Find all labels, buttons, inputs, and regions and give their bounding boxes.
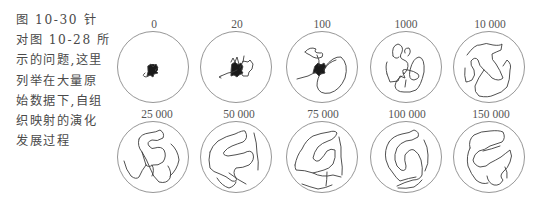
panel-path-100 xyxy=(297,48,346,93)
panel-label-75000: 75 000 xyxy=(307,108,339,120)
panel-label-1000: 1000 xyxy=(395,18,418,30)
panel-path-0 xyxy=(143,64,158,77)
panel-path-75000 xyxy=(295,131,342,189)
panel-path-10000 xyxy=(465,44,511,97)
panel-label-100: 100 xyxy=(313,18,331,30)
panel-circle-10000 xyxy=(454,32,525,103)
panel-label-0: 0 xyxy=(151,18,157,30)
panel-label-150000: 150 000 xyxy=(472,108,510,120)
panel-label-50000: 50 000 xyxy=(223,108,255,120)
panel-label-20: 20 xyxy=(231,18,243,30)
panel-path-100000 xyxy=(385,130,428,188)
panel-label-25000: 25 000 xyxy=(141,108,173,120)
panel-path-150000 xyxy=(467,131,511,185)
panel-label-10000: 10 000 xyxy=(474,18,506,30)
panel-path-20 xyxy=(219,56,253,78)
panel-path-50000 xyxy=(209,131,258,188)
panel-label-100000: 100 000 xyxy=(388,108,426,120)
panel-path-1000 xyxy=(386,44,424,92)
som-evolution-figure: 0 20 100 1000 10 000 25 000 50 000 75 00… xyxy=(0,0,540,199)
panel-path-25000 xyxy=(124,130,179,183)
